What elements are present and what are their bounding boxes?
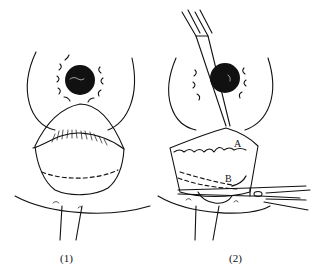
specimen-outline xyxy=(35,104,124,195)
mark-a: A xyxy=(234,138,242,149)
mark-b: B xyxy=(225,173,232,184)
scissors-icon xyxy=(178,186,310,210)
anus-opening-2 xyxy=(210,63,240,93)
perineum-arc xyxy=(27,52,55,130)
panel-1-drawing xyxy=(15,52,150,240)
panel-1-label: (1) xyxy=(60,252,73,264)
panel-2-drawing: A B xyxy=(158,10,310,240)
cut-line xyxy=(42,170,118,178)
panel-2-label: (2) xyxy=(229,252,242,264)
surgical-illustration: A B (1) (2) xyxy=(0,0,316,279)
specimen-outline-2 xyxy=(170,128,258,197)
